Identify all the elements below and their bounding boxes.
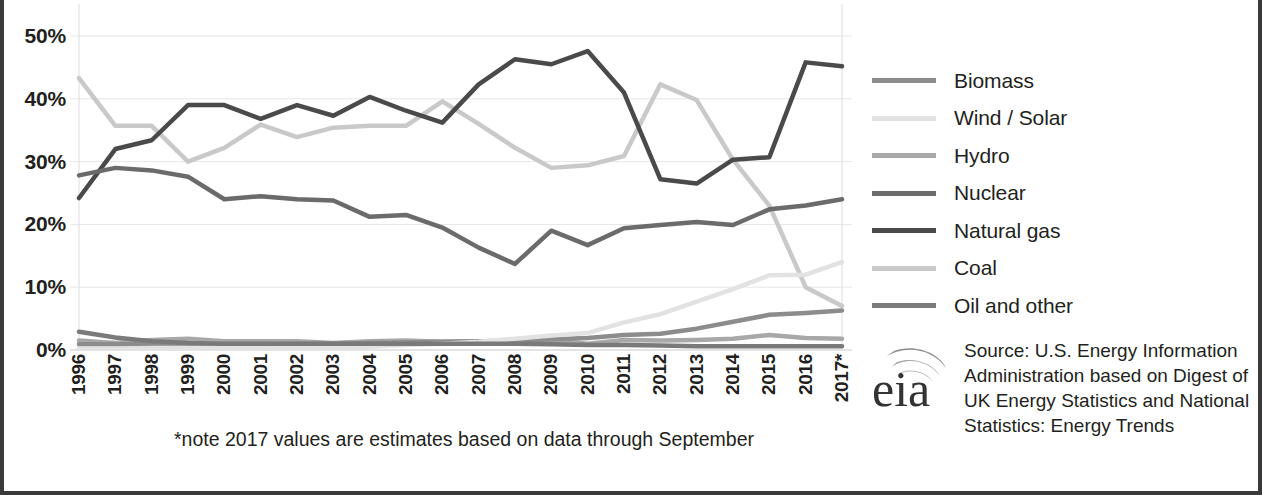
x-tick-label: 2004 [359,354,381,395]
legend-swatch-icon [872,266,936,271]
x-axis: 1996199719981999200020012002200320042005… [70,352,852,422]
y-tick-label: 50% [10,24,66,48]
x-tick-label: 2005 [395,354,417,395]
legend-item[interactable]: Oil and other [872,287,1252,325]
series-line [79,168,842,264]
y-tick-label: 10% [10,275,66,299]
x-tick-label: 2001 [250,354,272,395]
x-tick-label: 2002 [286,354,308,395]
y-tick-label: 0% [10,338,66,362]
x-tick-label: 2016 [795,354,817,395]
series-line [79,78,842,306]
x-tick-label: 1997 [104,354,126,395]
plot-area [70,0,852,352]
x-tick-label: 2011 [613,354,635,394]
x-tick-label: 2017* [831,354,853,402]
legend-item-label: Hydro [954,144,1010,168]
source-text: Source: U.S. Energy Information Administ… [964,336,1260,438]
legend-item[interactable]: Hydro [872,137,1252,175]
y-tick-label: 30% [10,150,66,174]
y-tick-label: 20% [10,212,66,236]
legend-item[interactable]: Nuclear [872,175,1252,213]
legend-item[interactable]: Coal [872,250,1252,288]
x-tick-label: 2000 [213,354,235,395]
x-tick-label: 2010 [577,354,599,395]
legend-swatch-icon [872,191,936,196]
line-chart-svg [70,0,852,352]
series-lines [79,51,842,349]
legend-item-label: Wind / Solar [954,106,1067,130]
y-axis: 50%40%30%20%10%0% [4,0,66,360]
x-tick-label: 2008 [504,354,526,395]
legend-swatch-icon [872,228,936,233]
x-tick-label: 2014 [722,354,744,395]
legend-item-label: Natural gas [954,219,1060,243]
chart-figure: 50%40%30%20%10%0% 1996199719981999200020… [0,0,1262,495]
legend-item-label: Coal [954,256,997,280]
legend-item-label: Biomass [954,69,1034,93]
x-tick-label: 2009 [540,354,562,395]
legend-swatch-icon [872,153,936,158]
x-tick-label: 2003 [322,354,344,395]
series-line [79,262,842,349]
legend: BiomassWind / SolarHydroNuclearNatural g… [872,62,1252,325]
x-tick-label: 1999 [177,354,199,395]
source-block: eia Source: U.S. Energy Information Admi… [870,336,1260,438]
y-tick-label: 40% [10,87,66,111]
legend-swatch-icon [872,116,936,121]
svg-text:eia: eia [872,361,930,417]
legend-item-label: Nuclear [954,181,1026,205]
x-tick-label: 2013 [686,354,708,395]
legend-swatch-icon [872,303,936,308]
footnote: *note 2017 values are estimates based on… [74,428,854,451]
series-line [79,51,842,198]
eia-logo-icon: eia [870,342,954,418]
x-tick-label: 2006 [431,354,453,395]
x-tick-label: 2012 [649,354,671,395]
legend-item[interactable]: Biomass [872,62,1252,100]
x-tick-label: 1998 [141,354,163,395]
legend-item-label: Oil and other [954,294,1073,318]
x-tick-label: 2015 [758,354,780,395]
x-tick-label: 2007 [468,354,490,395]
legend-item[interactable]: Wind / Solar [872,100,1252,138]
legend-item[interactable]: Natural gas [872,212,1252,250]
x-tick-label: 1996 [68,354,90,395]
legend-swatch-icon [872,78,936,83]
